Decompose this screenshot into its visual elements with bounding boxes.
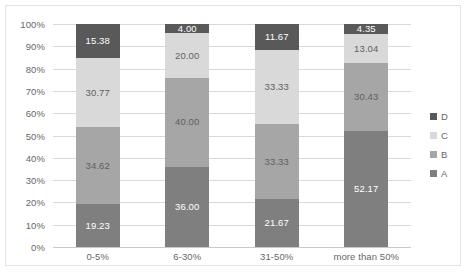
bar-slot: 19.2334.6230.7715.38 bbox=[53, 24, 143, 247]
y-axis-tick-label: 70% bbox=[26, 85, 45, 96]
x-axis-tick-label: 31-50% bbox=[232, 251, 322, 262]
bar-segment-a[interactable]: 36.00 bbox=[165, 167, 209, 247]
legend-swatch-icon bbox=[430, 170, 437, 177]
y-axis-tick-label: 0% bbox=[31, 242, 45, 253]
x-axis-tick-label: more than 50% bbox=[322, 251, 412, 262]
legend-swatch-icon bbox=[430, 113, 437, 120]
bar-segment-c[interactable]: 20.00 bbox=[165, 33, 209, 78]
bar-segment-a[interactable]: 52.17 bbox=[344, 131, 388, 247]
stacked-bar[interactable]: 52.1730.4313.044.35 bbox=[344, 24, 388, 247]
stacked-bar[interactable]: 36.0040.0020.004.00 bbox=[165, 24, 209, 247]
legend-item-b[interactable]: B bbox=[430, 145, 460, 164]
bar-segment-d[interactable]: 11.67 bbox=[255, 24, 299, 50]
y-axis: 0%10%20%30%40%50%60%70%80%90%100% bbox=[6, 24, 49, 247]
bar-segment-c[interactable]: 30.77 bbox=[76, 58, 120, 127]
y-axis-tick-label: 30% bbox=[26, 175, 45, 186]
legend-swatch-icon bbox=[430, 151, 437, 158]
chart-container: 0%10%20%30%40%50%60%70%80%90%100% 19.233… bbox=[5, 5, 461, 266]
bar-segment-value: 33.33 bbox=[265, 157, 289, 167]
legend-label: B bbox=[441, 150, 447, 160]
bar-slot: 21.6733.3333.3311.67 bbox=[232, 24, 322, 247]
bar-segment-c[interactable]: 33.33 bbox=[255, 50, 299, 124]
bar-slot: 52.1730.4313.044.35 bbox=[322, 24, 412, 247]
legend-label: D bbox=[441, 112, 448, 122]
legend-item-a[interactable]: A bbox=[430, 164, 460, 183]
bar-segment-b[interactable]: 30.43 bbox=[344, 63, 388, 131]
y-axis-tick-label: 40% bbox=[26, 152, 45, 163]
legend-label: C bbox=[441, 131, 448, 141]
bar-segment-d[interactable]: 4.35 bbox=[344, 24, 388, 34]
y-axis-tick-label: 20% bbox=[26, 197, 45, 208]
bar-slot: 36.0040.0020.004.00 bbox=[143, 24, 233, 247]
gridline bbox=[53, 247, 411, 248]
bar-segment-b[interactable]: 33.33 bbox=[255, 124, 299, 198]
bar-segment-value: 36.00 bbox=[175, 202, 199, 212]
bar-group: 19.2334.6230.7715.3836.0040.0020.004.002… bbox=[53, 24, 411, 247]
legend-swatch-icon bbox=[430, 132, 437, 139]
bar-segment-c[interactable]: 13.04 bbox=[344, 34, 388, 63]
bar-segment-a[interactable]: 19.23 bbox=[76, 204, 120, 247]
y-axis-tick-label: 50% bbox=[26, 130, 45, 141]
stacked-bar[interactable]: 19.2334.6230.7715.38 bbox=[76, 24, 120, 247]
legend-label: A bbox=[441, 169, 447, 179]
y-axis-tick-label: 90% bbox=[26, 41, 45, 52]
bar-segment-b[interactable]: 40.00 bbox=[165, 78, 209, 167]
y-axis-tick-label: 10% bbox=[26, 219, 45, 230]
bar-segment-value: 33.33 bbox=[265, 82, 289, 92]
x-axis-tick-label: 0-5% bbox=[53, 251, 143, 262]
bar-segment-value: 30.77 bbox=[86, 88, 110, 98]
x-axis: 0-5%6-30%31-50%more than 50% bbox=[53, 251, 411, 262]
bar-segment-value: 20.00 bbox=[175, 51, 199, 61]
bar-segment-value: 15.38 bbox=[86, 36, 110, 46]
legend-item-d[interactable]: D bbox=[430, 107, 460, 126]
bar-segment-value: 52.17 bbox=[354, 184, 378, 194]
bar-segment-value: 19.23 bbox=[86, 221, 110, 231]
legend-item-c[interactable]: C bbox=[430, 126, 460, 145]
bar-segment-value: 40.00 bbox=[175, 117, 199, 127]
bar-segment-a[interactable]: 21.67 bbox=[255, 199, 299, 247]
bar-segment-value: 13.04 bbox=[354, 44, 378, 54]
bar-segment-value: 34.62 bbox=[86, 161, 110, 171]
bar-segment-value: 30.43 bbox=[354, 92, 378, 102]
bar-segment-value: 21.67 bbox=[265, 218, 289, 228]
bar-segment-value: 11.67 bbox=[265, 32, 289, 42]
y-axis-tick-label: 100% bbox=[20, 19, 45, 30]
plot-area: 19.2334.6230.7715.3836.0040.0020.004.002… bbox=[53, 24, 411, 247]
x-axis-tick-label: 6-30% bbox=[143, 251, 233, 262]
y-axis-tick-label: 80% bbox=[26, 63, 45, 74]
y-axis-tick-label: 60% bbox=[26, 108, 45, 119]
stacked-bar[interactable]: 21.6733.3333.3311.67 bbox=[255, 24, 299, 247]
bar-segment-d[interactable]: 4.00 bbox=[165, 24, 209, 33]
bar-segment-b[interactable]: 34.62 bbox=[76, 127, 120, 204]
chart-legend: DCBA bbox=[430, 107, 460, 183]
bar-segment-value: 4.35 bbox=[357, 24, 376, 34]
bar-segment-value: 4.00 bbox=[178, 24, 197, 33]
bar-segment-d[interactable]: 15.38 bbox=[76, 24, 120, 58]
